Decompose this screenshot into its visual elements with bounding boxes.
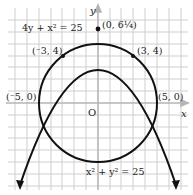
- point-label-5-0: (5, 0): [158, 91, 184, 102]
- point-label-neg5-0: (⁻5, 0): [6, 91, 37, 102]
- point-label-3-4: (3, 4): [137, 45, 163, 56]
- point-label-neg3-4: (⁻3, 4): [32, 45, 63, 56]
- parabola-left-arrow-icon: [16, 180, 24, 190]
- circle-equation: x² + y² = 25: [86, 166, 144, 177]
- parabola-equation: 4y + x² = 25: [22, 22, 83, 33]
- y-axis-arrow-icon: [95, 5, 101, 12]
- parabola-right-arrow-icon: [172, 180, 180, 190]
- point-label-vertex: (0, 6¼): [102, 19, 137, 30]
- diagram: y x O 4y + x² = 25 x² + y² = 25 (0, 6¼) …: [0, 0, 193, 195]
- y-axis-label: y: [89, 5, 96, 16]
- origin-label: O: [88, 107, 96, 118]
- x-axis-label: x: [181, 108, 187, 119]
